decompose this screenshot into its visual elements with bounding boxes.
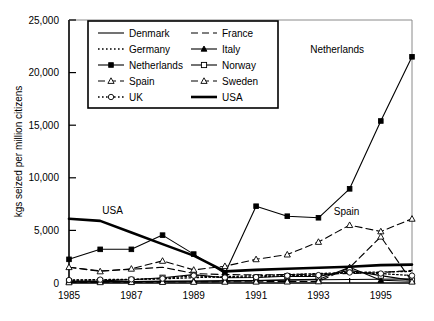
marker-circle-open xyxy=(316,272,321,277)
marker-circle-open xyxy=(129,277,134,282)
marker-circle-open xyxy=(347,270,352,275)
marker-square-filled xyxy=(347,187,352,192)
series-usa xyxy=(69,219,412,272)
legend-label-norway: Norway xyxy=(222,60,256,71)
y-axis-title: kgs seized per million citizens xyxy=(13,86,24,218)
marker-triangle-open xyxy=(409,216,415,222)
legend-label-netherlands: Netherlands xyxy=(129,60,183,71)
marker-circle-open xyxy=(160,276,165,281)
legend-label-denmark: Denmark xyxy=(129,28,171,39)
series-line xyxy=(69,219,412,272)
x-tick-label: 1991 xyxy=(245,290,268,301)
y-tick-label: 20,000 xyxy=(28,67,59,78)
y-tick-label: 15,000 xyxy=(28,120,59,131)
marker-circle-open xyxy=(222,275,227,280)
series-line xyxy=(69,219,412,272)
marker-square-filled xyxy=(379,119,384,124)
annotation-netherlands: Netherlands xyxy=(310,44,364,55)
legend-label-germany: Germany xyxy=(129,44,170,55)
marker-square-filled xyxy=(129,247,134,252)
x-tick-label: 1987 xyxy=(120,290,143,301)
marker-circle-open xyxy=(409,273,414,278)
marker-square-filled xyxy=(285,214,290,219)
x-tick-label: 1985 xyxy=(58,290,81,301)
marker-square-filled xyxy=(316,215,321,220)
y-tick-label: 5,000 xyxy=(34,225,59,236)
line-chart: 05,00010,00015,00020,00025,0001985198719… xyxy=(0,0,434,321)
marker-square-filled xyxy=(160,233,165,238)
marker-circle-open xyxy=(285,273,290,278)
marker-square-filled xyxy=(410,55,415,60)
x-tick-label: 1993 xyxy=(307,290,330,301)
marker-circle-open xyxy=(378,271,383,276)
marker-triangle-open xyxy=(66,264,72,270)
marker-circle-open xyxy=(253,274,258,279)
marker-triangle-open xyxy=(315,239,321,245)
annotation-spain: Spain xyxy=(334,206,360,217)
legend-label-spain: Spain xyxy=(129,76,155,87)
x-tick-label: 1989 xyxy=(183,290,206,301)
marker-triangle-open xyxy=(159,258,165,264)
marker-triangle-open xyxy=(378,234,384,240)
marker-square-filled xyxy=(98,247,103,252)
y-tick-label: 25,000 xyxy=(28,15,59,26)
legend: DenmarkGermanyNetherlandsSpainUKFranceIt… xyxy=(88,21,278,108)
y-tick-label: 0 xyxy=(53,278,59,289)
annotation-usa: USA xyxy=(102,205,123,216)
legend-label-france: France xyxy=(222,28,254,39)
chart-container: 05,00010,00015,00020,00025,0001985198719… xyxy=(0,0,434,321)
legend-label-usa: USA xyxy=(222,92,243,103)
marker-square-filled xyxy=(67,257,72,262)
legend-label-sweden: Sweden xyxy=(222,76,258,87)
marker-circle-open xyxy=(66,277,71,282)
marker-circle-open xyxy=(108,94,113,99)
legend-label-italy: Italy xyxy=(222,44,240,55)
marker-triangle-open xyxy=(128,266,134,272)
marker-square-open xyxy=(201,62,206,67)
x-tick-label: 1995 xyxy=(370,290,393,301)
legend-label-uk: UK xyxy=(129,92,143,103)
series-line xyxy=(69,237,412,283)
marker-square-filled xyxy=(254,204,259,209)
y-tick-label: 10,000 xyxy=(28,172,59,183)
marker-triangle-open xyxy=(347,222,353,228)
marker-square-filled xyxy=(109,63,114,68)
marker-circle-open xyxy=(191,273,196,278)
marker-circle-open xyxy=(97,277,102,282)
